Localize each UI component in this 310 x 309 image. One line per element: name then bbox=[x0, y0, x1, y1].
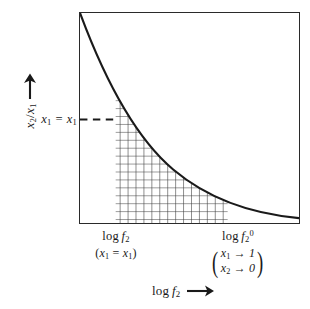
paren-left: ( bbox=[212, 250, 218, 273]
right-arrow-icon bbox=[187, 284, 215, 298]
plot-area bbox=[80, 13, 299, 223]
x-tick-label-right: log f20 ( x1 → 1 x2 → 0 ) bbox=[192, 228, 284, 277]
x-tick-label-left: log f2 (x1 = x1) bbox=[74, 228, 158, 262]
y-tick-label-x1-equals-x1: x1 = x1 bbox=[41, 112, 77, 127]
x-axis-label: log f2 bbox=[152, 283, 180, 299]
left-tick-label-wrap: x1 = x1 bbox=[0, 112, 77, 130]
x-axis-label-group: log f2 bbox=[152, 280, 262, 302]
limit-matrix: ( x1 → 1 x2 → 0 ) bbox=[210, 246, 265, 277]
paren-right: ) bbox=[257, 250, 263, 273]
plot-frame bbox=[79, 12, 300, 224]
figure-root: x2/x1 x1 = x1 bbox=[0, 0, 310, 309]
limit-row-2: x2 → 0 bbox=[221, 261, 256, 276]
x-tick-right-sub: ( x1 → 1 x2 → 0 ) bbox=[192, 246, 284, 277]
x-tick-right-main: log f20 bbox=[192, 228, 284, 245]
x-tick-left-sub: (x1 = x1) bbox=[74, 246, 158, 262]
x-tick-left-main: log f2 bbox=[74, 228, 158, 245]
limit-row-1: x1 → 1 bbox=[221, 246, 256, 261]
shaded-region bbox=[80, 13, 299, 223]
